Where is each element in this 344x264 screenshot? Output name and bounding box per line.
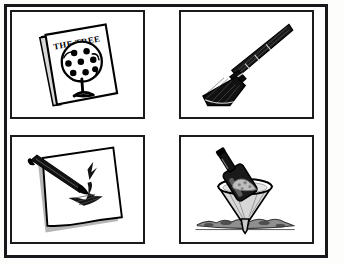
panel-grid: THE TREE (10, 10, 314, 244)
brush-and-paper-drawing (12, 137, 143, 242)
bottle (210, 143, 259, 202)
illustration-scene: THE TREE (0, 0, 344, 264)
panel-brush-paper (10, 135, 145, 244)
panel-broom (179, 10, 314, 119)
book-with-tree-drawing: THE TREE (12, 12, 143, 117)
broom-drawing (181, 12, 312, 117)
panel-bottle-funnel (179, 135, 314, 244)
broom-handle (232, 24, 293, 76)
bottle-funnel-drawing (181, 137, 312, 242)
panel-book: THE TREE (10, 10, 145, 119)
funnel-spout (241, 219, 249, 233)
